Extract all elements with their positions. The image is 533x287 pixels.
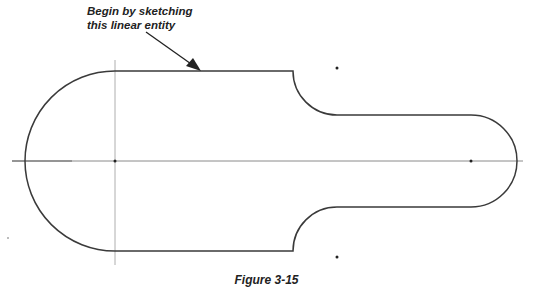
center-point-top-fillet [336,67,339,70]
annotation-line-2: this linear entity [87,18,192,32]
center-point-right-arc [470,160,473,163]
center-point-left-arc [114,160,117,163]
annotation-callout: Begin by sketching this linear entity [87,4,192,32]
leader-line [146,32,194,66]
annotation-line-1: Begin by sketching [87,4,192,18]
figure-caption: Figure 3-15 [0,273,533,287]
stray-point [7,237,9,239]
arrow-head-icon [186,58,201,71]
center-point-bottom-fillet [336,256,339,259]
